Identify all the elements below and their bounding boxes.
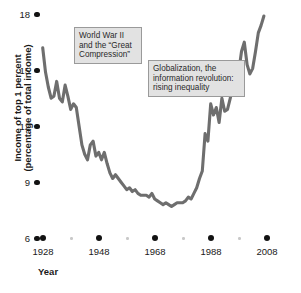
annotation-ww2-line1: World War II — [79, 31, 137, 41]
annotation-ww2-line3: Compression” — [79, 50, 137, 60]
chart-figure: Income of top 1 percent (percentage of t… — [0, 0, 301, 293]
annotation-globalization-line2: information revolution: — [153, 74, 240, 84]
annotation-globalization-line1: Globalization, the — [153, 64, 240, 74]
annotation-globalization-line3: rising inequality — [153, 83, 240, 93]
annotation-ww2: World War II and the “Great Compression” — [74, 27, 142, 64]
plot-area — [0, 0, 301, 293]
annotation-globalization: Globalization, the information revolutio… — [148, 60, 245, 97]
annotation-ww2-line2: and the “Great — [79, 41, 137, 51]
